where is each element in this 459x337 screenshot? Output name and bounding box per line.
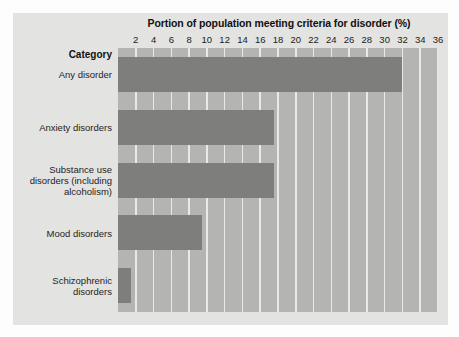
category-label-3: Mood disorders	[16, 227, 112, 238]
x-tick-label-34: 34	[411, 34, 429, 45]
x-tick-label-24: 24	[322, 34, 340, 45]
x-tick-label-22: 22	[305, 34, 323, 45]
x-tick-label-36: 36	[429, 34, 447, 45]
bar-row	[118, 163, 438, 198]
bar-row	[118, 268, 438, 303]
chart-screenshot: Portion of population meeting criteria f…	[0, 0, 459, 337]
bar-4	[118, 268, 131, 303]
x-tick-label-20: 20	[287, 34, 305, 45]
plot-area	[118, 48, 438, 312]
x-tick-label-6: 6	[162, 34, 180, 45]
x-tick-label-26: 26	[340, 34, 358, 45]
x-tick-label-16: 16	[251, 34, 269, 45]
category-label-0: Any disorder	[16, 69, 112, 80]
x-tick-label-18: 18	[269, 34, 287, 45]
x-axis-tick-labels: 24681012141618202224262830323436	[118, 34, 438, 48]
bar-0	[118, 57, 402, 92]
category-axis-header: Category	[20, 49, 112, 60]
category-label-1: Anxiety disorders	[16, 122, 112, 133]
x-tick-label-10: 10	[198, 34, 216, 45]
x-tick-label-2: 2	[127, 34, 145, 45]
bar-3	[118, 215, 202, 250]
bar-row	[118, 215, 438, 250]
category-label-4: Schizophrenic disorders	[16, 275, 112, 297]
x-tick-label-8: 8	[180, 34, 198, 45]
bar-1	[118, 110, 274, 145]
x-tick-label-12: 12	[216, 34, 234, 45]
bar-row	[118, 110, 438, 145]
chart-title: Portion of population meeting criteria f…	[118, 17, 440, 29]
bar-row	[118, 57, 438, 92]
x-tick-label-28: 28	[358, 34, 376, 45]
x-tick-label-14: 14	[233, 34, 251, 45]
x-tick-label-4: 4	[145, 34, 163, 45]
x-tick-label-30: 30	[376, 34, 394, 45]
x-tick-label-32: 32	[393, 34, 411, 45]
category-label-2: Substance use disorders (including alcoh…	[16, 164, 112, 197]
bar-2	[118, 163, 274, 198]
